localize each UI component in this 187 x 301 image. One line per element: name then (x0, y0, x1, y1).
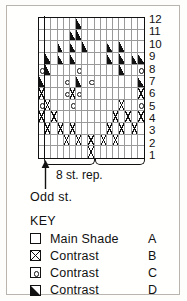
key-label: Main Shade (50, 232, 119, 246)
chart-cell (138, 53, 144, 65)
odd-stitch-divider (44, 16, 45, 160)
repeat-bracket-2 (95, 158, 145, 165)
key-letter: B (148, 249, 156, 263)
chart-cell (138, 123, 144, 135)
key-swatch-d-icon (30, 285, 41, 296)
chart-page: 121110987654321 8 st. rep. Odd st. KEY M… (0, 0, 187, 301)
key-letter: A (148, 232, 156, 246)
row-number: 6 (149, 88, 173, 100)
repeat-brackets (38, 158, 145, 167)
key-title: KEY (30, 214, 56, 228)
key-swatch-c-icon (30, 267, 41, 278)
repeat-label: 8 st. rep. (56, 168, 103, 182)
row-number: 10 (149, 39, 173, 51)
chart-cell (138, 88, 144, 100)
key-row: ContrastC (30, 264, 178, 281)
chart-cell (138, 65, 144, 77)
row-number: 5 (149, 101, 173, 113)
key-label: Contrast (50, 249, 99, 263)
key-row: ContrastB (30, 247, 178, 264)
chart-cell (138, 41, 144, 53)
knitting-chart (38, 17, 145, 159)
row-number: 4 (149, 113, 173, 125)
repeat-bracket-1 (44, 158, 94, 165)
key-swatch-a-icon (30, 233, 41, 244)
chart-cell (138, 30, 144, 42)
key-label: Contrast (50, 283, 99, 297)
row-number: 9 (149, 51, 173, 63)
row-number: 12 (149, 14, 173, 26)
row-number: 11 (149, 26, 173, 38)
key-swatch-b-icon (30, 250, 41, 261)
key-row: Main ShadeA (30, 230, 178, 247)
chart-cell (138, 135, 144, 147)
chart-cell (138, 111, 144, 123)
chart-cell (138, 146, 144, 158)
odd-stitch-label: Odd st. (30, 190, 72, 204)
odd-stitch-arrow (41, 160, 50, 190)
row-number: 8 (149, 64, 173, 76)
key-letter: C (148, 266, 157, 280)
key-letter: D (148, 283, 157, 297)
chart-cell (138, 100, 144, 112)
row-number: 7 (149, 76, 173, 88)
chart-cell (138, 76, 144, 88)
row-number: 3 (149, 125, 173, 137)
key-label: Contrast (50, 266, 99, 280)
key-list: Main ShadeAContrastBContrastCContrastD (30, 230, 178, 299)
chart-grid (38, 17, 145, 159)
row-number: 2 (149, 138, 173, 150)
row-number: 1 (149, 150, 173, 162)
key-row: ContrastD (30, 282, 178, 299)
row-number-axis: 121110987654321 (149, 14, 173, 162)
chart-cell (138, 18, 144, 30)
